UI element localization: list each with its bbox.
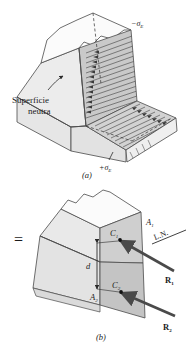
b-area-A2-face <box>100 262 145 318</box>
technical-figure-svg: −σE +σE Superficie neutra (a) = <box>0 0 192 347</box>
panel-b-drawing: A1 C1 C2 d A2 L.N. R1 R2 (b) <box>33 190 186 342</box>
compressive-stress-subscript: E <box>139 24 143 29</box>
neutral-surface-label-line1: Superficie <box>12 95 49 105</box>
label-area-A1: A1 <box>145 217 154 228</box>
tensile-stress-subscript: E <box>107 168 111 173</box>
panel-a-caption: (a) <box>82 170 92 180</box>
panel-a-drawing: −σE +σE Superficie neutra (a) <box>12 13 177 180</box>
label-resultant-R2: R2 <box>163 322 172 333</box>
equals-sign: = <box>14 231 23 248</box>
label-resultant-R1: R1 <box>165 275 174 286</box>
centroid-C1-dot <box>118 238 122 242</box>
label-compressive-stress: −σE <box>131 19 143 29</box>
figure-root: −σE +σE Superficie neutra (a) = <box>0 0 192 347</box>
label-tensile-stress: +σE <box>99 163 111 173</box>
svg-text:−σE: −σE <box>131 19 143 29</box>
panel-b-caption: (b) <box>96 332 106 342</box>
neutral-surface-label-line2: neutra <box>28 106 51 116</box>
label-neutral-axis-LN: L.N. <box>152 228 169 242</box>
svg-text:+σE: +σE <box>99 163 111 173</box>
